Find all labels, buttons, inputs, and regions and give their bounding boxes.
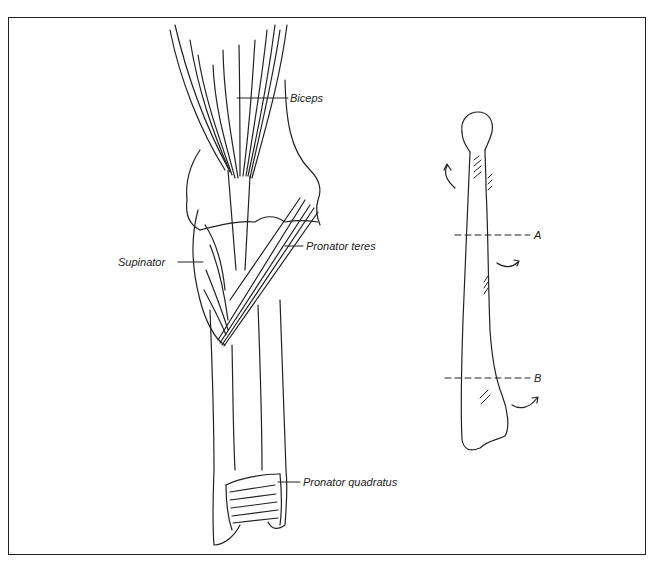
label-pronator-teres: Pronator teres — [306, 240, 376, 252]
isolated-radius — [444, 112, 538, 450]
forearm-bones — [210, 300, 287, 545]
label-biceps: Biceps — [290, 92, 323, 104]
label-section-b: B — [534, 372, 541, 384]
label-section-a: A — [534, 229, 541, 241]
biceps-muscle — [170, 25, 287, 270]
label-supinator: Supinator — [118, 256, 165, 268]
pronator-quadratus-muscle — [226, 474, 282, 530]
label-pronator-quadratus: Pronator quadratus — [303, 476, 397, 488]
